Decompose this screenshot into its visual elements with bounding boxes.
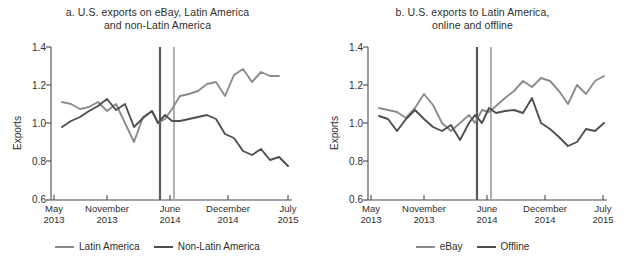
panel-a-legend-swatch-non-latin-america (154, 246, 173, 248)
panel-a-plot-area (0, 0, 315, 258)
figure-container: a. U.S. exports on eBay, Latin America a… (0, 0, 630, 258)
panel-a: a. U.S. exports on eBay, Latin America a… (0, 0, 315, 258)
panel-b-legend: eBay Offline (315, 241, 630, 252)
panel-b: b. U.S. exports to Latin America, online… (315, 0, 630, 258)
panel-b-legend-label-ebay: eBay (440, 241, 463, 252)
panel-a-legend: Latin America Non-Latin America (0, 241, 315, 252)
panel-a-legend-item-non-latin-america[interactable]: Non-Latin America (154, 241, 260, 252)
panel-b-plot-area (315, 0, 630, 258)
panel-b-legend-item-ebay[interactable]: eBay (416, 241, 463, 252)
panel-b-legend-swatch-offline (477, 246, 496, 248)
panel-a-legend-label-latin-america: Latin America (79, 241, 140, 252)
panel-a-legend-item-latin-america[interactable]: Latin America (55, 241, 140, 252)
panel-a-series-latin-america (62, 69, 279, 142)
panel-b-legend-swatch-ebay (416, 246, 435, 248)
panel-a-legend-label-non-latin-america: Non-Latin America (178, 241, 260, 252)
panel-a-legend-swatch-latin-america (55, 246, 74, 248)
panel-b-svg (315, 0, 630, 258)
panel-a-svg (0, 0, 315, 258)
panel-a-series-non-latin-america (62, 99, 288, 166)
panel-b-legend-item-offline[interactable]: Offline (477, 241, 530, 252)
panel-b-legend-label-offline: Offline (501, 241, 530, 252)
